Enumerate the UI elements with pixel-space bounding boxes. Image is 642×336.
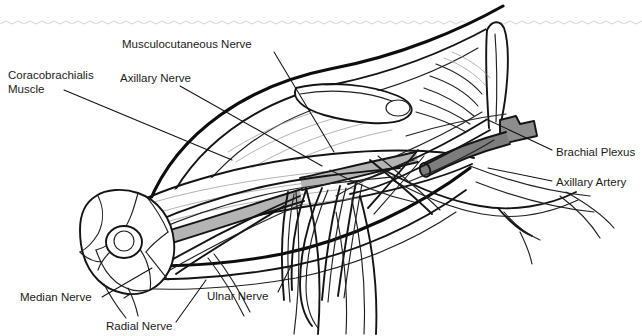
coracoid-process xyxy=(295,84,412,123)
label-coracobrachialis-muscle-line1: Coracobrachialis xyxy=(8,69,94,81)
label-coracobrachialis-muscle-line2: Muscle xyxy=(8,83,44,95)
arm-cross-section xyxy=(80,190,174,318)
label-ulnar-nerve: Ulnar Nerve xyxy=(207,290,268,302)
label-axillary-nerve: Axillary Nerve xyxy=(120,72,191,84)
label-median-nerve: Median Nerve xyxy=(20,291,92,303)
torn-edge-decoration xyxy=(0,21,642,24)
label-brachial-plexus: Brachial Plexus xyxy=(556,146,636,158)
label-axillary-artery: Axillary Artery xyxy=(556,176,627,188)
leader-axillary-artery xyxy=(488,168,552,181)
leader-radial-nerve xyxy=(176,280,206,322)
label-musculocutaneous-nerve: Musculocutaneous Nerve xyxy=(122,38,252,50)
anatomy-diagram-canvas: Musculocutaneous Nerve Coracobrachialis … xyxy=(0,0,642,336)
label-radial-nerve: Radial Nerve xyxy=(106,320,172,332)
anatomy-figure: Musculocutaneous Nerve Coracobrachialis … xyxy=(0,0,642,336)
